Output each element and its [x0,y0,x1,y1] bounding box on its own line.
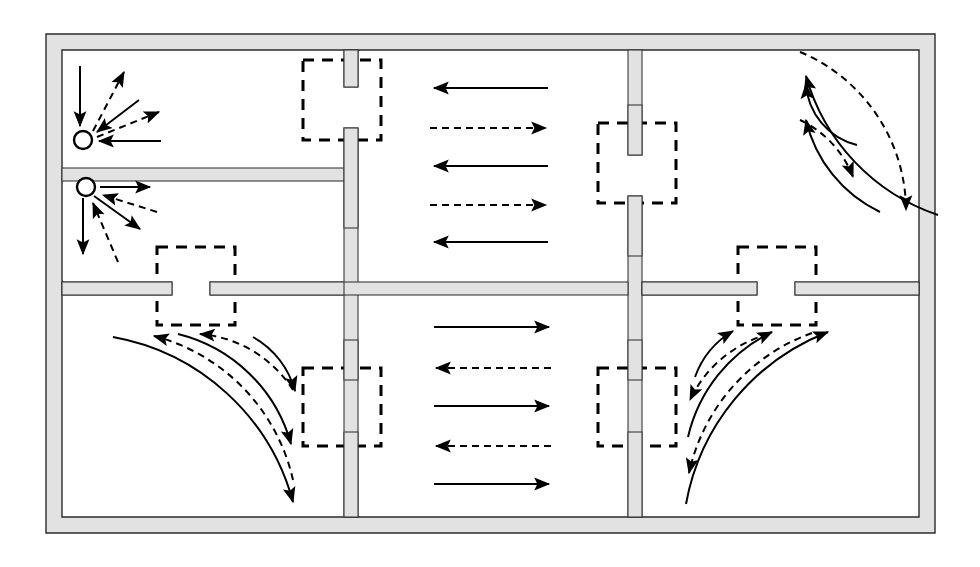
room-top-left-upper-flows [74,66,161,149]
arc-solid-3-left-arrow [806,76,938,215]
room-top-right-flows [800,52,938,215]
arc-solid-1-top-arrow [695,331,733,377]
horizontal-wall-upper-left [62,168,344,181]
node-circle-lower [77,178,95,196]
room-top-middle-flows [430,88,548,242]
room-bottom-right-flows [686,331,828,504]
ray-solid-inbound-diag [97,100,139,132]
arc-solid-3-right-arrow [113,337,293,502]
arc-solid-1-left-arrow [806,84,857,145]
ray-dashed-inbound-up [93,203,118,262]
floor-plan-diagram [0,0,980,567]
room-bottom-middle-flows [434,327,551,484]
arc-solid-2-right-arrow [178,334,291,444]
node-circle-upper [74,131,92,149]
room-top-left-lower-flows [77,178,157,262]
door-marker-bottom-left-middle [303,368,381,446]
horizontal-wall-mid [62,282,919,295]
arc-solid-2-left-arrow [806,120,880,212]
arc-dashed-2-bottom-arrow [800,52,906,210]
door-marker-top-left-middle [303,60,381,140]
floor-plan-canvas [0,0,980,567]
arc-solid-2-top-arrow [688,332,772,437]
arc-solid-3-top-arrow [686,332,828,504]
room-bottom-left-flows [113,334,295,502]
